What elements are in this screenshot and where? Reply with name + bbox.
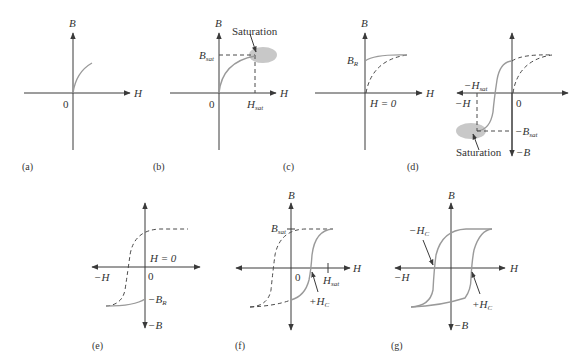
neg-h-label: −H — [94, 271, 110, 283]
h-sat-label: Hsat — [322, 274, 340, 288]
neg-b-r-label: −BR — [148, 293, 167, 307]
panel-caption: (b) — [153, 161, 165, 173]
saturation-region — [249, 47, 277, 63]
coercive-curve — [291, 229, 333, 300]
h-sat-label: Hsat — [246, 98, 264, 112]
remanence-curve — [365, 55, 407, 61]
b-sat-label: Bsat — [271, 222, 287, 236]
neg-b-label: −B — [454, 319, 468, 331]
panel-c: B H BR H = 0 (c) — [283, 17, 435, 173]
b-sat-label: Bsat — [199, 49, 215, 63]
saturation-annotation: Saturation — [232, 25, 278, 37]
origin-label: 0 — [295, 271, 301, 283]
b-r-label: BR — [347, 54, 359, 68]
pos-h-c-pointer-arrow — [312, 272, 318, 292]
origin-label: 0 — [516, 97, 522, 109]
initial-magnetization-curve — [513, 55, 552, 93]
neg-b-sat-label: −Bsat — [515, 125, 538, 139]
panel-g: B H −H −B −HC +HC (g) — [391, 189, 519, 352]
saturation-region — [456, 123, 486, 139]
h-axis-label: H — [279, 87, 289, 99]
origin-label: 0 — [148, 270, 154, 282]
neg-h-label: −H — [394, 271, 410, 283]
panel-f: B H 0 Bsat Hsat +HC (f) — [235, 189, 362, 352]
neg-h-c-pointer-arrow — [423, 240, 433, 265]
b-axis-label: B — [288, 189, 295, 201]
pos-h-c-pointer-arrow — [472, 272, 480, 294]
panel-caption: (e) — [92, 340, 103, 352]
b-axis-label: B — [215, 17, 222, 29]
saturation-annotation: Saturation — [456, 146, 502, 158]
h-axis-label: H — [352, 262, 362, 274]
b-axis-label: B — [69, 17, 76, 29]
hysteresis-figure: B H 0 (a) B H 0 Bsat Hsat Saturation (b)… — [0, 0, 588, 362]
panel-a: B H 0 (a) — [22, 17, 143, 173]
panel-e: H = 0 0 −H −BR −B (e) — [92, 203, 200, 352]
h-axis-label: H — [425, 87, 435, 99]
origin-label: 0 — [209, 98, 215, 110]
initial-magnetization-curve — [366, 55, 407, 93]
panel-d: −Hsat −H 0 −Bsat −B Saturation (d) — [407, 33, 568, 173]
panel-b: B H 0 Bsat Hsat Saturation (b) — [153, 17, 289, 173]
panel-caption: (c) — [283, 161, 294, 173]
pos-h-c-label: +HC — [309, 295, 329, 309]
neg-b-label: −B — [148, 319, 162, 331]
h-axis-label: H — [509, 262, 519, 274]
neg-b-label: −B — [516, 146, 530, 158]
remanence-curve — [512, 55, 552, 61]
b-axis-label: B — [361, 17, 368, 29]
neg-h-label: −H — [455, 97, 471, 109]
magnetization-curve — [73, 63, 92, 93]
h-zero-label: H = 0 — [149, 252, 177, 264]
pos-h-c-label: +HC — [472, 298, 492, 312]
h-zero-label: H = 0 — [369, 97, 397, 109]
panel-caption: (g) — [391, 340, 403, 352]
magnetization-curve — [219, 56, 255, 93]
reference-loop-bottom — [250, 300, 291, 307]
panel-caption: (f) — [235, 340, 245, 352]
b-axis-label: B — [448, 189, 455, 201]
panel-caption: (a) — [22, 161, 33, 173]
h-axis-label: H — [133, 87, 143, 99]
demagnetization-curve — [477, 61, 512, 131]
origin-label: 0 — [63, 98, 69, 110]
neg-h-sat-label: −Hsat — [464, 79, 489, 93]
neg-remanence-curve — [106, 299, 145, 306]
neg-h-c-label: −HC — [409, 224, 429, 238]
panel-caption: (d) — [407, 161, 419, 173]
